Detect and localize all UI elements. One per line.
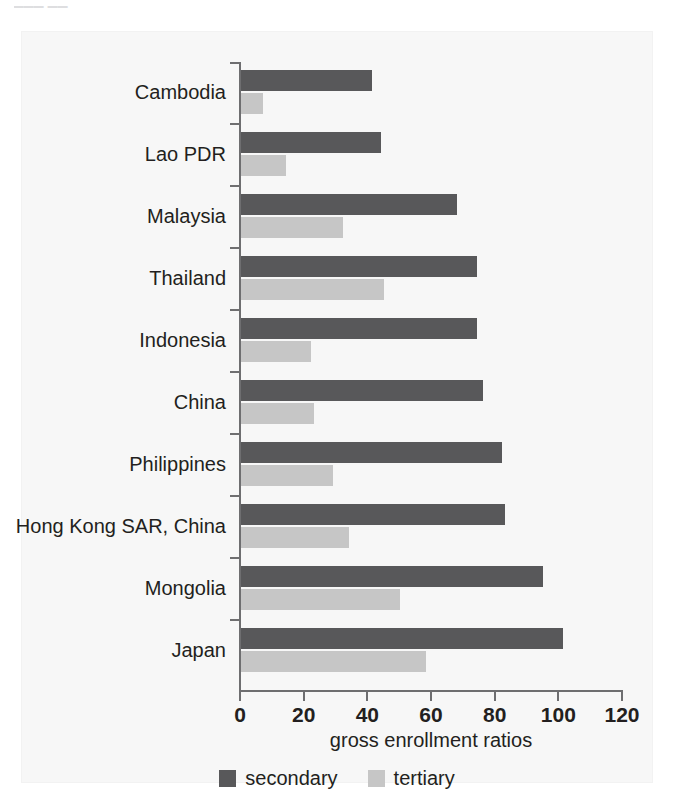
- x-axis-tick: [494, 692, 496, 701]
- category-label: Lao PDR: [145, 143, 226, 166]
- bar-secondary: [241, 132, 381, 153]
- bar-tertiary: [241, 217, 343, 238]
- chart-panel: 020406080100120 CambodiaLao PDRMalaysiaT…: [22, 32, 652, 782]
- y-axis-tick: [230, 123, 239, 125]
- bar-secondary: [241, 566, 543, 587]
- x-axis-tick-label: 0: [234, 703, 246, 727]
- x-axis-tick: [557, 692, 559, 701]
- legend-label: tertiary: [394, 767, 455, 790]
- bar-tertiary: [241, 155, 286, 176]
- category-label: Mongolia: [145, 577, 226, 600]
- chart-legend: secondarytertiary: [22, 767, 652, 790]
- category-label: Philippines: [129, 453, 226, 476]
- plot-area: 020406080100120 CambodiaLao PDRMalaysiaT…: [22, 32, 652, 782]
- legend-swatch-icon: [219, 770, 236, 787]
- bar-secondary: [241, 318, 477, 339]
- y-axis-tick: [230, 371, 239, 373]
- bar-tertiary: [241, 589, 400, 610]
- x-axis-tick-label: 20: [292, 703, 315, 727]
- x-axis-tick: [430, 692, 432, 701]
- bar-tertiary: [241, 279, 384, 300]
- bar-tertiary: [241, 341, 311, 362]
- x-axis-tick: [621, 692, 623, 701]
- bar-secondary: [241, 442, 502, 463]
- category-label: Thailand: [149, 267, 226, 290]
- x-axis-tick-label: 60: [419, 703, 442, 727]
- category-label: Malaysia: [147, 205, 226, 228]
- x-axis-tick-label: 120: [604, 703, 639, 727]
- category-label: China: [174, 391, 226, 414]
- bar-tertiary: [241, 651, 426, 672]
- y-axis-tick: [230, 495, 239, 497]
- x-axis-tick: [366, 692, 368, 701]
- y-axis-tick: [230, 433, 239, 435]
- bar-secondary: [241, 628, 563, 649]
- x-axis-tick-label: 40: [356, 703, 379, 727]
- page-header-remnant: ▁▁▁ ▁▁: [14, 0, 134, 8]
- category-label: Hong Kong SAR, China: [16, 515, 226, 538]
- bar-tertiary: [241, 93, 263, 114]
- category-label: Japan: [172, 639, 227, 662]
- y-axis-tick: [230, 309, 239, 311]
- x-axis-tick-label: 100: [541, 703, 576, 727]
- bar-secondary: [241, 504, 505, 525]
- bar-secondary: [241, 256, 477, 277]
- legend-item: tertiary: [368, 767, 455, 790]
- legend-label: secondary: [245, 767, 337, 790]
- category-label: Indonesia: [139, 329, 226, 352]
- bar-tertiary: [241, 465, 333, 486]
- bar-secondary: [241, 194, 457, 215]
- x-axis-tick: [303, 692, 305, 701]
- bar-secondary: [241, 380, 483, 401]
- y-axis-tick: [230, 185, 239, 187]
- bar-tertiary: [241, 403, 314, 424]
- category-label: Cambodia: [135, 81, 226, 104]
- y-axis-tick: [230, 247, 239, 249]
- bar-secondary: [241, 70, 372, 91]
- legend-item: secondary: [219, 767, 337, 790]
- legend-swatch-icon: [368, 770, 385, 787]
- y-axis-tick: [230, 619, 239, 621]
- x-axis-title: gross enrollment ratios: [239, 729, 623, 752]
- bar-tertiary: [241, 527, 349, 548]
- x-axis-tick: [239, 692, 241, 701]
- y-axis-tick: [230, 62, 239, 64]
- x-axis-tick-label: 80: [483, 703, 506, 727]
- y-axis-tick: [230, 557, 239, 559]
